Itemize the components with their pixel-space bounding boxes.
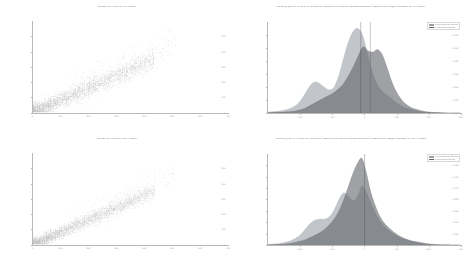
x-tick-mark [364,245,365,247]
y-tick-mark [266,74,268,75]
x-tick-mark [364,113,365,115]
x-tick-label: 100 [59,115,63,117]
x-tick-mark [88,113,89,115]
density-area-1 [268,46,461,113]
legend-swatch-counterfactual [429,159,434,160]
legend: errors sensitive features errors counter… [427,22,461,30]
x-tick-label: 0 [32,115,33,117]
y-tick-label: 100 [222,228,226,230]
y-tick-label: 0.004 [452,86,458,88]
density-xct-axes: 0.0000.0020.0040.0060.0080.0100.0120.014… [267,154,461,246]
x-tick-mark [61,113,62,115]
x-tick-label: 700 [226,247,230,249]
x-tick-mark [300,113,301,115]
x-tick-label: 200 [427,116,431,118]
x-tick-mark [144,113,145,115]
x-tick-mark [461,113,462,115]
y-tick-mark [266,199,268,200]
x-tick-mark [228,245,229,247]
y-tick-mark [31,36,33,37]
x-tick-mark [172,113,173,115]
x-tick-mark [461,245,462,247]
x-tick-mark [116,113,117,115]
x-tick-mark [300,245,301,247]
legend-item-counterfactual: errors counterfactual [429,27,458,29]
y-tick-mark [266,35,268,36]
y-tick-label: 200 [222,213,226,215]
x-tick-label: 200 [86,115,90,117]
x-tick-label: 100 [59,247,63,249]
x-tick-mark [61,245,62,247]
x-tick-label: -100 [330,248,335,250]
legend: errors sensitive features errors counter… [427,154,461,162]
y-tick-label: 400 [222,51,226,53]
y-tick-label: 0.004 [452,221,458,223]
x-tick-label: -100 [330,116,335,118]
x-tick-mark [200,245,201,247]
y-tick-label: 0.010 [452,187,458,189]
x-tick-mark [88,245,89,247]
y-tick-label: 300 [222,198,226,200]
y-tick-mark [266,245,268,246]
y-tick-label: 0 [224,243,225,245]
y-tick-mark [31,168,33,169]
y-tick-mark [31,214,33,215]
y-tick-label: 0.008 [452,198,458,200]
y-tick-mark [31,52,33,53]
scatter-xct-axes: 01002003004005000100200300400500600700 [32,153,229,245]
y-tick-mark [266,113,268,114]
x-tick-label: 300 [459,116,463,118]
y-tick-mark [31,229,33,230]
x-tick-label: 700 [226,115,230,117]
y-tick-label: 0.002 [452,99,458,101]
panel-title: Actual vs Fitted on XCT model [0,138,234,141]
scatter-lin-plot [33,21,229,112]
x-tick-label: 400 [142,247,146,249]
panel-title: Density plot of errors for sensitive fea… [234,138,468,141]
scatter-points [33,25,176,112]
y-tick-mark [266,234,268,235]
x-tick-label: 100 [395,248,399,250]
scatter-xct-plot [33,153,229,244]
y-tick-mark [266,222,268,223]
x-tick-label: 0 [364,248,365,250]
x-tick-mark [332,113,333,115]
panel-scatter-xct: Actual vs Fitted on XCT model 0100200300… [0,132,234,264]
y-tick-mark [266,211,268,212]
y-tick-mark [31,82,33,83]
y-tick-label: 0.010 [452,47,458,49]
x-tick-label: 0 [364,116,365,118]
y-tick-mark [266,87,268,88]
density-xct-plot [268,154,461,245]
y-tick-mark [266,188,268,189]
y-tick-label: 100 [222,96,226,98]
y-tick-mark [266,177,268,178]
y-tick-label: 500 [222,35,226,37]
legend-item-counterfactual: errors counterfactual [429,159,458,161]
x-tick-label: -200 [298,116,303,118]
x-tick-label: 300 [114,115,118,117]
x-tick-mark [200,113,201,115]
y-tick-label: 0.012 [452,176,458,178]
x-tick-mark [172,245,173,247]
y-tick-mark [266,61,268,62]
x-tick-label: 0 [32,247,33,249]
x-tick-mark [332,245,333,247]
legend-label-counterfactual: errors counterfactual [435,27,455,29]
x-tick-label: 500 [170,115,174,117]
x-tick-label: 600 [198,115,202,117]
scatter-lin-axes: 01002003004005000100200300400500600700 [32,21,229,113]
y-tick-mark [266,100,268,101]
y-tick-label: 0.002 [452,233,458,235]
y-tick-label: 0.006 [452,210,458,212]
y-tick-label: 0.008 [452,60,458,62]
figure-grid: Actual vs Fitted on lin model 0100200300… [0,0,468,264]
scatter-points [33,167,175,245]
x-tick-mark [144,245,145,247]
y-tick-label: 300 [222,66,226,68]
y-tick-mark [31,97,33,98]
x-tick-label: 400 [142,115,146,117]
legend-swatch-sensitive [429,24,434,25]
y-tick-label: 0.014 [452,164,458,166]
x-tick-label: 100 [395,116,399,118]
